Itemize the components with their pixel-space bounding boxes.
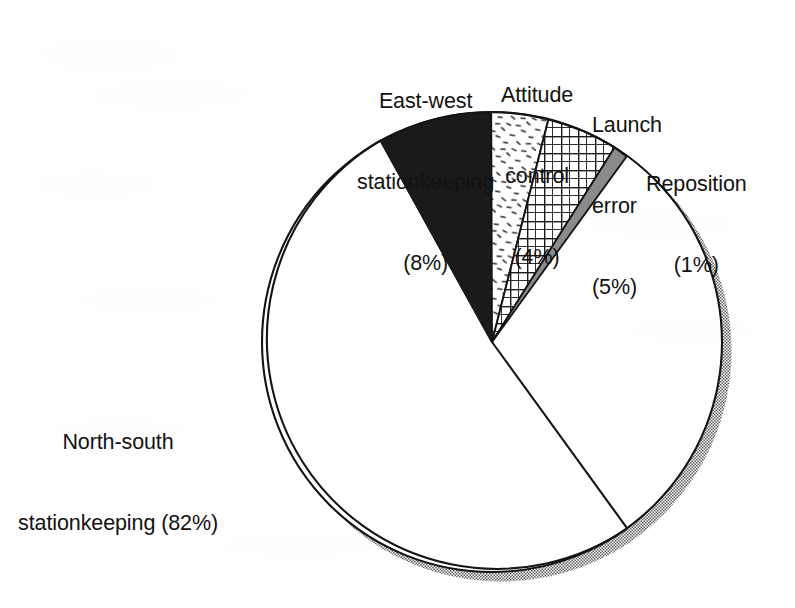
label-attitude-line1: Attitude (501, 82, 573, 109)
label-east-west-line2: stationkeeping (357, 169, 494, 196)
label-north-south-line2: stationkeeping (82%) (18, 510, 218, 537)
pie-chart-figure: East-west stationkeeping (8%) Attitude c… (0, 0, 795, 608)
label-reposition-line1: Reposition (646, 171, 747, 198)
label-north-south-stationkeeping: North-south stationkeeping (82%) (18, 375, 218, 591)
label-attitude-line3: (4%) (501, 244, 573, 271)
label-north-south-line1: North-south (18, 429, 218, 456)
label-east-west-line3: (8%) (357, 250, 494, 277)
label-attitude-control: Attitude control (4%) (501, 28, 573, 325)
label-east-west-line1: East-west (357, 88, 494, 115)
label-attitude-line2: control (501, 163, 573, 190)
label-east-west-stationkeeping: East-west stationkeeping (8%) (357, 34, 494, 331)
label-reposition-line2: (1%) (646, 252, 747, 279)
label-reposition: Reposition (1%) (646, 117, 747, 333)
